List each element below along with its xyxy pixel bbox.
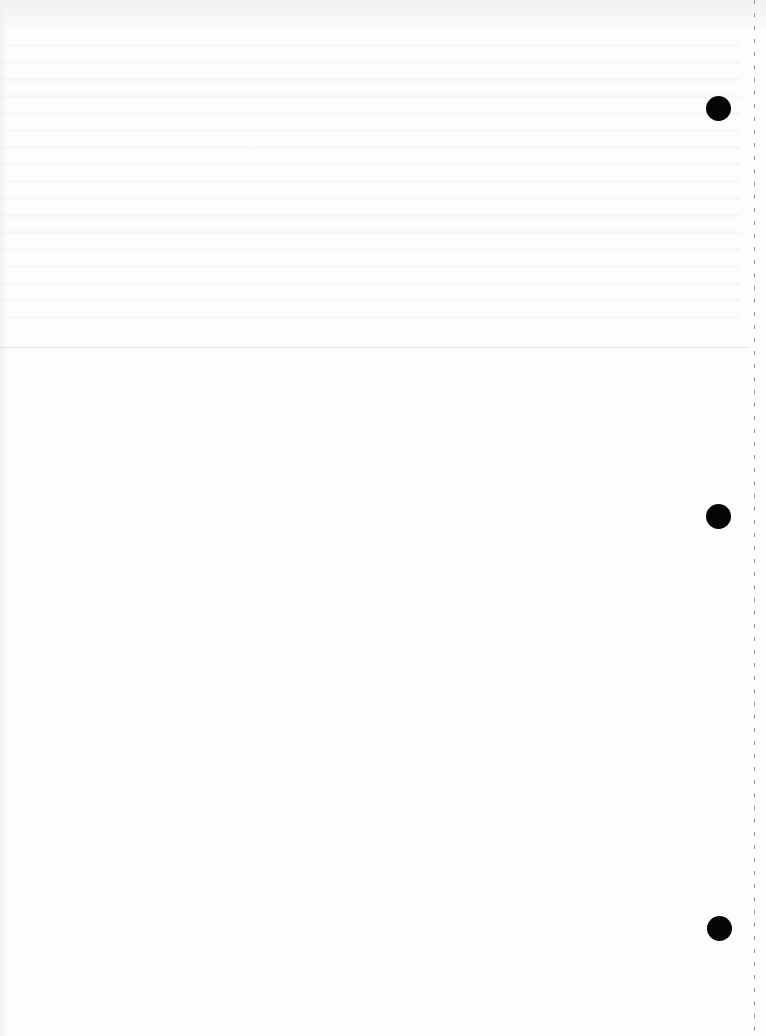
fold-line (0, 347, 750, 348)
document-page (0, 0, 766, 1036)
scan-top-band (0, 0, 766, 30)
perforation-line (754, 0, 755, 1036)
punch-hole-middle (706, 504, 731, 529)
bleed-through-region (0, 30, 740, 320)
scan-edge-shadow (0, 0, 8, 1036)
punch-hole-bottom (707, 916, 732, 941)
punch-hole-top (706, 96, 731, 121)
